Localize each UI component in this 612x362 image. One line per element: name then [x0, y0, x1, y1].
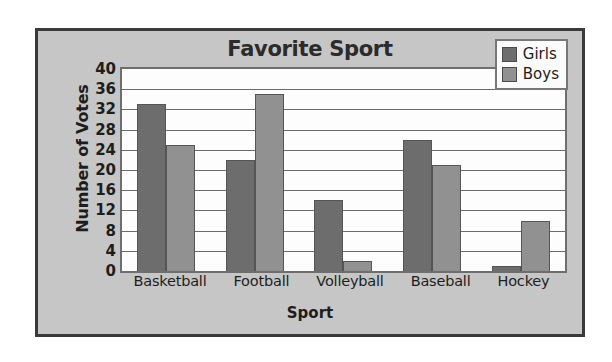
y-tick-label: 8 — [70, 223, 116, 238]
chart-legend: GirlsBoys — [495, 39, 568, 90]
y-tick-label: 0 — [70, 264, 116, 279]
bar-volleyball-boys[interactable] — [343, 261, 372, 271]
x-tick-label: Hockey — [498, 273, 550, 289]
legend-label: Boys — [523, 67, 559, 82]
x-tick-label: Volleyball — [316, 273, 383, 289]
y-tick-label: 4 — [70, 243, 116, 258]
y-tick-label: 36 — [70, 82, 116, 97]
bar-baseball-girls[interactable] — [403, 140, 432, 271]
bar-football-boys[interactable] — [255, 94, 284, 271]
bar-group — [492, 69, 550, 271]
bars-layer — [122, 69, 565, 271]
bar-group — [403, 69, 461, 271]
legend-item-girls[interactable]: Girls — [502, 44, 559, 64]
plot-area — [120, 67, 567, 273]
x-tick-label: Basketball — [133, 273, 206, 289]
y-axis-tick-labels: 0481216202428323640 — [70, 67, 116, 269]
bar-volleyball-girls[interactable] — [314, 200, 343, 271]
x-tick-label: Baseball — [411, 273, 471, 289]
y-tick-label: 28 — [70, 122, 116, 137]
bar-group — [137, 69, 195, 271]
y-tick-label: 24 — [70, 142, 116, 157]
legend-swatch-icon — [502, 47, 517, 62]
bar-basketball-boys[interactable] — [166, 145, 195, 271]
x-axis-title: Sport — [38, 304, 582, 322]
x-axis-tick-labels: BasketballFootballVolleyballBaseballHock… — [120, 273, 563, 289]
chart-screenshot: Favorite Sport Number of Votes 048121620… — [0, 0, 612, 362]
bar-baseball-boys[interactable] — [432, 165, 461, 271]
bar-hockey-boys[interactable] — [521, 221, 550, 272]
chart-panel: Favorite Sport Number of Votes 048121620… — [35, 28, 585, 337]
legend-swatch-icon — [502, 67, 517, 82]
y-tick-label: 12 — [70, 203, 116, 218]
bar-group — [314, 69, 372, 271]
bar-group — [226, 69, 284, 271]
y-tick-label: 20 — [70, 163, 116, 178]
x-tick-label: Football — [234, 273, 290, 289]
bar-hockey-girls[interactable] — [492, 266, 521, 271]
bar-basketball-girls[interactable] — [137, 104, 166, 271]
y-tick-label: 16 — [70, 183, 116, 198]
legend-label: Girls — [523, 47, 557, 62]
y-tick-label: 40 — [70, 62, 116, 77]
bar-football-girls[interactable] — [226, 160, 255, 271]
legend-item-boys[interactable]: Boys — [502, 64, 559, 84]
y-tick-label: 32 — [70, 102, 116, 117]
